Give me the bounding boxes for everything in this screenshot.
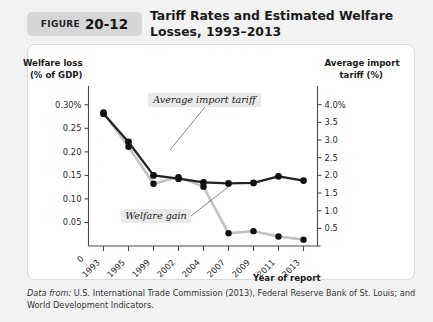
welfare-loss-point	[125, 139, 132, 146]
figure-container: FIGURE 20-12 Tariff Rates and Estimated …	[0, 0, 433, 322]
welfare-loss-point	[175, 175, 182, 182]
tariff-point	[250, 228, 256, 234]
x-tick-label: 1995	[105, 257, 127, 279]
right-tick-label: 2.0	[325, 170, 338, 180]
welfare-loss-point	[100, 110, 107, 117]
left-tick-label: 0.20	[63, 147, 82, 157]
left-axis-caption: Welfare loss	[23, 58, 83, 68]
welfare-loss-line	[104, 114, 304, 184]
left-axis-caption: (% of GDP)	[30, 70, 83, 80]
x-axis-caption: Year of report	[252, 273, 320, 283]
x-tick-label: 2007	[205, 257, 227, 279]
right-tick-label: 2.5	[325, 153, 338, 163]
annotation-welfare-gain-leader	[191, 187, 228, 216]
tariff-point	[300, 236, 306, 242]
tariff-point	[225, 230, 231, 236]
left-tick-label: 0.25	[63, 123, 82, 133]
chart-plot: 0.050.100.150.200.250.30%0.51.01.52.02.5…	[0, 0, 433, 322]
x-origin-label: 0	[75, 253, 86, 264]
welfare-loss-point	[250, 180, 257, 187]
welfare-loss-point	[225, 180, 232, 187]
annotation-welfare-gain-label: Welfare gain	[125, 210, 187, 221]
right-tick-label: 4.0%	[325, 100, 346, 110]
right-tick-label: 3.5	[325, 117, 338, 127]
right-axis-caption: tariff (%)	[340, 70, 384, 80]
source-lead: Data from:	[27, 288, 71, 298]
right-tick-label: 3.0	[325, 135, 338, 145]
left-tick-label: 0.10	[63, 194, 82, 204]
x-tick-label: 2002	[155, 257, 177, 279]
right-axis-caption: Average import	[325, 58, 400, 68]
welfare-loss-point	[200, 179, 207, 186]
right-tick-label: 1.0	[325, 206, 338, 216]
tariff-point	[275, 233, 281, 239]
tariff-point	[150, 181, 156, 187]
figure-source-note: Data from: U.S. International Trade Comm…	[27, 288, 417, 311]
right-tick-label: 0.5	[325, 223, 338, 233]
left-tick-label: 0.05	[63, 217, 82, 227]
x-tick-label: 2009	[230, 257, 252, 279]
left-tick-label: 0.15	[63, 170, 82, 180]
x-tick-label: 2004	[180, 257, 202, 279]
x-tick-label: 1999	[130, 257, 152, 279]
annotation-average-import-tariff-leader	[170, 107, 205, 150]
source-text: U.S. International Trade Commission (201…	[27, 288, 415, 310]
welfare-loss-point	[150, 172, 157, 179]
right-tick-label: 1.5	[325, 188, 338, 198]
welfare-loss-point	[300, 177, 307, 184]
welfare-loss-point	[275, 173, 282, 180]
annotation-average-import-tariff-label: Average import tariff	[152, 94, 258, 105]
left-tick-label: 0.30%	[55, 100, 82, 110]
